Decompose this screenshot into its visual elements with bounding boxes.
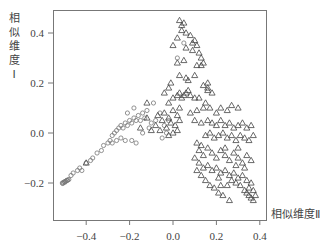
data-point-circle	[160, 136, 164, 140]
data-point-circle	[141, 111, 145, 115]
data-point-triangle	[222, 152, 228, 157]
data-point-triangle	[222, 145, 228, 150]
data-point-triangle	[248, 157, 254, 162]
data-point-triangle	[207, 182, 213, 187]
data-point-triangle	[170, 42, 176, 47]
data-point-triangle	[237, 132, 243, 137]
x-tick-label: 0.0	[166, 230, 180, 242]
data-point-triangle	[239, 172, 245, 177]
data-point-circle	[145, 108, 149, 112]
data-point-triangle	[235, 105, 241, 110]
data-point-circle	[141, 131, 145, 135]
data-point-triangle	[244, 152, 250, 157]
y-axis: −0.20.00.20.4	[24, 27, 53, 189]
x-axis-title: 相似维度Ⅱ	[271, 207, 320, 221]
data-point-triangle	[176, 117, 182, 122]
data-point-triangle	[235, 145, 241, 150]
data-point-triangle	[231, 150, 237, 155]
data-point-triangle	[196, 147, 202, 152]
data-point-triangle	[179, 27, 185, 32]
data-point-triangle	[192, 155, 198, 160]
data-point-circle	[151, 101, 155, 105]
data-point-triangle	[168, 80, 174, 85]
data-point-triangle	[250, 132, 256, 137]
data-point-triangle	[224, 107, 230, 112]
data-point-triangle	[207, 105, 213, 110]
y-axis-title-char: 相	[9, 12, 20, 25]
data-point-triangle	[224, 182, 230, 187]
data-point-triangle	[205, 117, 211, 122]
y-axis-title-char: 似	[9, 26, 20, 39]
data-point-triangle	[174, 127, 180, 132]
data-point-circle	[149, 121, 153, 125]
data-point-triangle	[174, 60, 180, 65]
data-point-circle	[136, 113, 140, 117]
data-point-triangle	[194, 140, 200, 145]
y-axis-title-char: 度	[9, 53, 20, 67]
data-point-circle	[95, 151, 99, 155]
y-axis-title-char: 维	[9, 40, 20, 53]
data-point-triangle	[233, 162, 239, 167]
y-tick-label: −0.2	[24, 177, 44, 189]
data-point-circle	[134, 141, 138, 145]
y-axis-title: 相似维度Ⅰ	[9, 12, 20, 81]
data-point-triangle	[198, 172, 204, 177]
data-point-triangle	[213, 110, 219, 115]
data-point-triangle	[229, 102, 235, 107]
data-point-circle	[114, 138, 118, 142]
data-point-triangle	[218, 182, 224, 187]
y-axis-title-char: Ⅰ	[12, 68, 15, 81]
data-point-triangle	[229, 132, 235, 137]
data-point-triangle	[174, 35, 180, 40]
data-point-triangle	[176, 105, 182, 110]
data-point-triangle	[213, 155, 219, 160]
series-circles	[60, 41, 186, 186]
data-point-triangle	[216, 190, 222, 195]
data-point-triangle	[194, 167, 200, 172]
data-point-triangle	[235, 155, 241, 160]
data-point-triangle	[187, 110, 193, 115]
data-point-triangle	[203, 177, 209, 182]
data-point-triangle	[189, 47, 195, 52]
data-point-circle	[182, 41, 186, 45]
data-point-triangle	[200, 105, 206, 110]
data-point-triangle	[205, 162, 211, 167]
data-point-triangle	[192, 117, 198, 122]
data-point-triangle	[226, 120, 232, 125]
data-point-triangle	[226, 197, 232, 202]
x-axis: −0.4−0.20.00.20.4	[76, 221, 267, 243]
data-point-triangle	[218, 117, 224, 122]
data-point-triangle	[176, 72, 182, 77]
data-point-triangle	[222, 167, 228, 172]
data-point-triangle	[233, 137, 239, 142]
data-point-circle	[132, 106, 136, 110]
data-point-triangle	[137, 125, 143, 130]
data-point-triangle	[220, 130, 226, 135]
data-point-triangle	[166, 100, 172, 105]
y-tick-label: 0.0	[30, 127, 44, 139]
data-point-triangle	[198, 120, 204, 125]
data-point-circle	[138, 118, 142, 122]
data-point-triangle	[166, 85, 172, 90]
data-point-triangle	[194, 107, 200, 112]
data-point-circle	[125, 111, 129, 115]
data-point-triangle	[216, 175, 222, 180]
y-tick-label: 0.2	[30, 77, 44, 89]
data-point-triangle	[181, 57, 187, 62]
data-point-circle	[130, 138, 134, 142]
data-point-triangle	[161, 90, 167, 95]
data-point-triangle	[244, 177, 250, 182]
data-point-triangle	[213, 165, 219, 170]
data-point-triangle	[248, 122, 254, 127]
data-point-triangle	[209, 150, 215, 155]
x-tick-label: 0.2	[210, 230, 224, 242]
data-point-triangle	[218, 105, 224, 110]
data-point-triangle	[229, 177, 235, 182]
data-point-triangle	[144, 100, 150, 105]
data-point-triangle	[226, 157, 232, 162]
x-tick-label: −0.2	[120, 230, 140, 242]
series-triangles	[83, 17, 258, 202]
data-point-circle	[119, 136, 123, 140]
data-point-triangle	[196, 95, 202, 100]
data-point-triangle	[239, 120, 245, 125]
